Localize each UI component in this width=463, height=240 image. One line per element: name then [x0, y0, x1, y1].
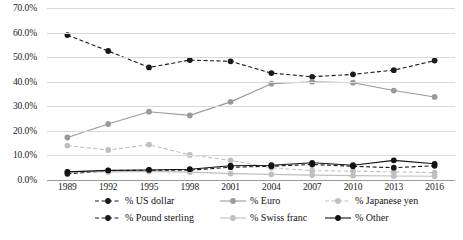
y-axis-tick-label: 50.0% — [0, 52, 37, 62]
gridline — [47, 57, 455, 58]
legend-label: % Other — [355, 213, 389, 223]
series-lines — [47, 8, 455, 180]
y-axis-tick-label: 70.0% — [0, 3, 37, 13]
x-axis-tick-label: 2010 — [331, 182, 375, 192]
series-line — [67, 145, 434, 173]
data-point-marker[interactable] — [350, 173, 356, 179]
data-point-marker[interactable] — [105, 147, 111, 153]
chart-legend: % US dollar% Euro% Japanese yen% Pound s… — [95, 192, 425, 226]
series-line — [67, 35, 434, 77]
data-point-marker[interactable] — [350, 71, 356, 77]
data-point-marker[interactable] — [432, 94, 438, 100]
data-point-marker[interactable] — [65, 135, 71, 141]
data-point-marker[interactable] — [309, 172, 315, 178]
data-point-marker[interactable] — [309, 160, 315, 166]
data-point-marker[interactable] — [432, 161, 438, 167]
x-axis-tick-label: 2004 — [249, 182, 293, 192]
series-line — [67, 160, 434, 172]
legend-item[interactable]: % Pound sterling — [95, 209, 220, 226]
legend-item[interactable]: % US dollar — [95, 192, 220, 209]
data-point-marker[interactable] — [391, 67, 397, 73]
data-point-marker[interactable] — [391, 165, 397, 171]
legend-item[interactable]: % Swiss franc — [220, 209, 325, 226]
data-point-marker[interactable] — [391, 157, 397, 163]
data-point-marker[interactable] — [228, 99, 234, 105]
data-point-marker[interactable] — [146, 142, 152, 148]
data-point-marker[interactable] — [105, 121, 111, 127]
data-point-marker[interactable] — [65, 143, 71, 149]
legend-label: % Japanese yen — [355, 196, 418, 206]
data-point-marker[interactable] — [350, 162, 356, 168]
data-point-marker[interactable] — [228, 58, 234, 64]
gridline — [47, 131, 455, 132]
data-point-marker[interactable] — [228, 163, 234, 169]
legend-label: % Euro — [250, 196, 280, 206]
data-point-marker[interactable] — [187, 166, 193, 172]
legend-label: % US dollar — [125, 196, 174, 206]
x-axis-tick-label: 2007 — [290, 182, 334, 192]
x-axis-tick-label: 1989 — [45, 182, 89, 192]
data-point-marker[interactable] — [65, 169, 71, 175]
x-axis-tick-label: 1992 — [86, 182, 130, 192]
legend-item[interactable]: % Other — [325, 209, 425, 226]
data-point-marker[interactable] — [146, 65, 152, 71]
legend-marker-icon — [220, 196, 246, 206]
legend-marker-icon — [95, 213, 121, 223]
legend-marker-icon — [325, 213, 351, 223]
legend-label: % Pound sterling — [125, 213, 194, 223]
data-point-marker[interactable] — [228, 171, 234, 177]
y-axis-tick-label: 20.0% — [0, 126, 37, 136]
legend-item[interactable]: % Japanese yen — [325, 192, 425, 209]
data-point-marker[interactable] — [269, 171, 275, 177]
x-axis-tick-label: 2016 — [413, 182, 457, 192]
data-point-marker[interactable] — [146, 167, 152, 173]
legend-item[interactable]: % Euro — [220, 192, 325, 209]
gridline — [47, 106, 455, 107]
series-line — [67, 82, 434, 138]
gridline — [47, 8, 455, 9]
y-axis-tick-label: 10.0% — [0, 150, 37, 160]
chart-root: 0.0%10.0%20.0%30.0%40.0%50.0%60.0%70.0%1… — [0, 0, 463, 240]
data-point-marker[interactable] — [269, 162, 275, 168]
plot-area: 0.0%10.0%20.0%30.0%40.0%50.0%60.0%70.0%1… — [47, 8, 455, 180]
legend-marker-icon — [325, 196, 351, 206]
y-axis-tick-label: 40.0% — [0, 77, 37, 87]
legend-marker-icon — [220, 213, 246, 223]
data-point-marker[interactable] — [432, 173, 438, 179]
legend-label: % Swiss franc — [250, 213, 307, 223]
y-axis-tick-label: 0.0% — [0, 175, 37, 185]
data-point-marker[interactable] — [146, 109, 152, 115]
x-axis-tick-label: 1998 — [168, 182, 212, 192]
x-axis-line — [47, 180, 455, 181]
y-axis-tick-label: 30.0% — [0, 101, 37, 111]
x-axis-tick-label: 1995 — [127, 182, 171, 192]
data-point-marker[interactable] — [105, 48, 111, 54]
data-point-marker[interactable] — [391, 173, 397, 179]
data-point-marker[interactable] — [105, 168, 111, 174]
data-point-marker[interactable] — [187, 112, 193, 118]
gridline — [47, 82, 455, 83]
gridline — [47, 155, 455, 156]
y-axis-tick-label: 60.0% — [0, 28, 37, 38]
x-axis-tick-label: 2001 — [209, 182, 253, 192]
legend-marker-icon — [95, 196, 121, 206]
x-axis-tick-label: 2013 — [372, 182, 416, 192]
data-point-marker[interactable] — [391, 88, 397, 94]
data-point-marker[interactable] — [228, 157, 234, 163]
data-point-marker[interactable] — [269, 70, 275, 76]
gridline — [47, 33, 455, 34]
data-point-marker[interactable] — [432, 58, 438, 64]
